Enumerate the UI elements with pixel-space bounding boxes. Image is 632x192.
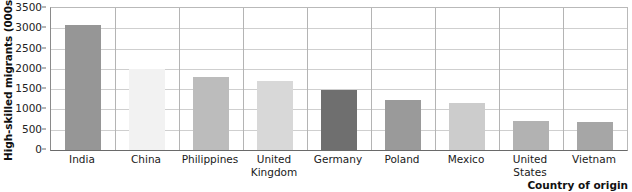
bar-united-kingdom[interactable]: [257, 81, 293, 150]
y-axis-tick-label: 1500: [15, 82, 42, 94]
x-axis-label-china: China: [114, 153, 178, 166]
y-axis-tick-label: 2000: [15, 62, 42, 74]
bar-philippines[interactable]: [193, 77, 229, 150]
bar-mexico[interactable]: [449, 103, 485, 150]
bar-china[interactable]: [129, 69, 165, 150]
bar-germany[interactable]: [321, 90, 357, 150]
bar-india[interactable]: [65, 25, 101, 150]
gridline-category-separator: [371, 8, 372, 150]
bar-poland[interactable]: [385, 100, 421, 150]
x-axis-label-vietnam: Vietnam: [562, 153, 626, 166]
x-axis-label-united-kingdom: UnitedKingdom: [242, 153, 306, 178]
x-axis-category-labels: IndiaChinaPhilippinesUnitedKingdomGerman…: [50, 153, 628, 181]
gridline-category-separator: [563, 8, 564, 150]
x-axis-title: Country of origin: [527, 179, 628, 191]
x-axis-label-germany: Germany: [306, 153, 370, 166]
gridline-horizontal: [51, 28, 627, 29]
y-axis-title-text: High-skilled migrants (000s): [2, 0, 14, 160]
y-axis-tick-label: 0: [35, 143, 42, 155]
gridline-category-separator: [115, 8, 116, 150]
y-axis-tick-label: 1000: [15, 102, 42, 114]
bar-vietnam[interactable]: [577, 122, 613, 150]
y-axis-tick-label: 3000: [15, 21, 42, 33]
x-axis-label-india: India: [50, 153, 114, 166]
y-axis-tick-mark: [42, 7, 46, 8]
y-axis-tick-label: 500: [22, 123, 42, 135]
x-axis-label-mexico: Mexico: [434, 153, 498, 166]
bar-united-states[interactable]: [513, 121, 549, 150]
x-axis-label-united-states: UnitedStates: [498, 153, 562, 178]
y-axis-tick-labels: 0500100015002000250030003500: [14, 0, 46, 155]
gridline-category-separator: [499, 8, 500, 150]
bar-chart: High-skilled migrants (000s) 05001000150…: [0, 0, 632, 192]
y-axis-tick-mark: [42, 108, 46, 109]
gridline-category-separator: [435, 8, 436, 150]
y-axis-tick-label: 3500: [15, 1, 42, 13]
x-axis-label-poland: Poland: [370, 153, 434, 166]
gridline-horizontal: [51, 49, 627, 50]
gridline-category-separator: [179, 8, 180, 150]
y-axis-tick-mark: [42, 149, 46, 150]
y-axis-tick-mark: [42, 47, 46, 48]
y-axis-tick-mark: [42, 27, 46, 28]
gridline-category-separator: [307, 8, 308, 150]
y-axis-tick-mark: [42, 67, 46, 68]
gridline-category-separator: [243, 8, 244, 150]
plot-area: [50, 7, 628, 151]
y-axis-tick-label: 2500: [15, 42, 42, 54]
y-axis-tick-mark: [42, 128, 46, 129]
x-axis-label-philippines: Philippines: [178, 153, 242, 166]
y-axis-tick-mark: [42, 88, 46, 89]
